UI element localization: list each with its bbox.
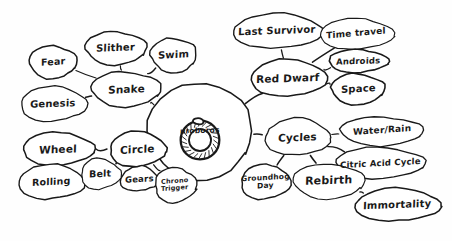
node-label-circle: Circle: [120, 143, 155, 155]
node-label-androids: Androids: [336, 56, 381, 66]
node-slither[interactable]: Slither: [82, 29, 150, 67]
node-label-rolling: Rolling: [32, 176, 71, 188]
node-label-rebirth: Rebirth: [305, 175, 353, 188]
node-label-belt: Belt: [89, 169, 111, 180]
node-groundhog-day[interactable]: Groundhog Day: [237, 162, 293, 202]
node-last-survivor[interactable]: Last Survivor: [229, 11, 325, 51]
node-label-red-dwarf: Red Dwarf: [256, 72, 320, 85]
node-label-swim: Swim: [158, 49, 189, 61]
node-label-wheel: Wheel: [39, 143, 77, 155]
node-label-fear: Fear: [41, 56, 65, 67]
node-water-rain[interactable]: Water/Rain: [337, 114, 427, 148]
node-immortality[interactable]: Immortality: [351, 186, 443, 224]
node-cycles[interactable]: Cycles: [261, 116, 333, 158]
node-label-cycles: Cycles: [277, 131, 316, 143]
node-red-dwarf[interactable]: Red Dwarf: [247, 57, 329, 99]
mind-map-canvas: uroborosSnakeFearSlitherSwimGenesisCircl…: [0, 0, 452, 241]
node-chrono-trigger[interactable]: Chrono Trigger: [151, 165, 199, 205]
node-genesis[interactable]: Genesis: [17, 84, 89, 124]
node-label-genesis: Genesis: [30, 98, 76, 110]
node-label-snake: Snake: [107, 83, 144, 95]
node-label-chrono-trigger: Chrono Trigger: [161, 178, 188, 193]
node-label-gears: Gears: [125, 174, 154, 184]
node-label-space: Space: [341, 83, 376, 95]
node-label-groundhog-day: Groundhog Day: [241, 173, 290, 191]
node-fear[interactable]: Fear: [26, 43, 80, 81]
node-label-slither: Slither: [96, 42, 135, 53]
ouroboros-snake-eating-tail-icon: [177, 117, 223, 163]
node-space[interactable]: Space: [328, 71, 388, 107]
node-swim[interactable]: Swim: [148, 35, 200, 75]
